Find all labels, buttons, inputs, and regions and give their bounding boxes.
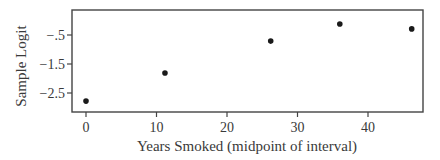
data-point: [268, 38, 274, 44]
plot-frame: [72, 10, 423, 112]
y-tick-label: −2.5: [40, 86, 65, 101]
data-point: [337, 21, 343, 27]
x-tick-label: 40: [361, 120, 375, 135]
y-axis: −.5−1.5−2.5: [40, 28, 72, 101]
x-tick-label: 30: [291, 120, 305, 135]
x-tick-label: 0: [83, 120, 90, 135]
y-tick-label: −.5: [47, 28, 65, 43]
data-point: [409, 26, 415, 32]
x-axis-label: Years Smoked (midpoint of interval): [137, 138, 357, 155]
x-tick-label: 10: [150, 120, 164, 135]
x-tick-label: 20: [220, 120, 234, 135]
y-tick-label: −1.5: [40, 57, 65, 72]
y-axis-label: Sample Logit: [13, 25, 29, 107]
data-point: [83, 98, 89, 104]
x-axis: 010203040: [83, 112, 376, 135]
data-point: [162, 70, 168, 76]
data-points: [83, 21, 414, 104]
scatter-chart: −.5−1.5−2.5 010203040 Years Smoked (midp…: [0, 0, 440, 160]
